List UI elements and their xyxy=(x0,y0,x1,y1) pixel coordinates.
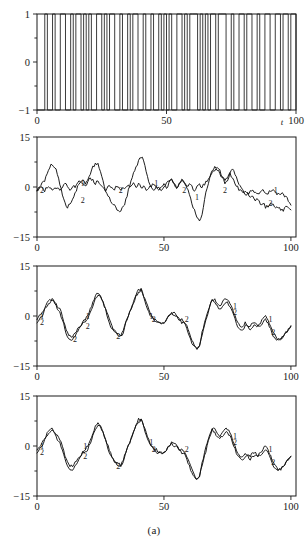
curve-number-label: 2 xyxy=(182,186,186,195)
panel-third: −150150501001221221221212 xyxy=(14,261,299,382)
curve-number-label: 2 xyxy=(152,445,156,454)
y-tick-label: 15 xyxy=(20,261,31,272)
curve-number-label: 2 xyxy=(119,186,123,195)
curve-number-label: 2 xyxy=(233,438,237,447)
curve-number-label: 2 xyxy=(116,332,120,341)
curve-number-label: 1 xyxy=(81,179,85,188)
x-tick-label: 100 xyxy=(288,115,304,126)
curve-number-label: 2 xyxy=(81,196,85,205)
y-tick-label: 0 xyxy=(25,441,30,452)
plot-frame xyxy=(37,396,296,496)
curve-number-label: 1 xyxy=(86,312,90,321)
x-tick-label: 50 xyxy=(161,115,172,126)
curve-number-label: 2 xyxy=(83,452,87,461)
curve-number-label: 1 xyxy=(195,193,199,202)
curve-number-label: 2 xyxy=(86,322,90,331)
y-tick-label: 15 xyxy=(20,391,31,402)
curve-number-label: 1 xyxy=(269,445,273,454)
y-tick-label: 0 xyxy=(25,57,30,68)
curve-number-label: 2 xyxy=(271,328,275,337)
plot-frame xyxy=(37,266,296,366)
curve-number-label: 2 xyxy=(233,308,237,317)
curve-number-label: 2 xyxy=(185,445,189,454)
curve-number-label: 1 xyxy=(83,442,87,451)
y-tick-label: −15 xyxy=(14,491,30,502)
figure-multi-panel-chart: −101050100t−150150501002122121212−150150… xyxy=(0,0,308,554)
y-tick-label: −1 xyxy=(19,105,30,116)
x-tick-label: 50 xyxy=(159,501,170,512)
curve-number-label: 1 xyxy=(269,315,273,324)
y-tick-label: −15 xyxy=(14,232,30,243)
curve-number-label: 1 xyxy=(274,186,278,195)
curve-number-label: 2 xyxy=(40,448,44,457)
x-tick-label: 0 xyxy=(34,371,39,382)
panel-second: −150150501002122121212 xyxy=(14,132,299,253)
series-1 xyxy=(37,418,291,479)
x-tick-label: 100 xyxy=(283,371,299,382)
curve-number-label: 2 xyxy=(116,462,120,471)
curve-number-label: 2 xyxy=(185,315,189,324)
series-binary input signal xyxy=(37,14,296,110)
curve-number-label: 2 xyxy=(152,315,156,324)
y-tick-label: 1 xyxy=(25,9,30,20)
curve-number-label: 2 xyxy=(269,199,273,208)
y-tick-label: 0 xyxy=(25,182,30,193)
x-tick-label: 100 xyxy=(283,242,299,253)
panel-top: −101050100t xyxy=(19,9,304,127)
curve-number-label: 1 xyxy=(154,179,158,188)
y-tick-label: 0 xyxy=(25,311,30,322)
x-tick-label: 0 xyxy=(34,242,39,253)
x-tick-label: 0 xyxy=(34,501,39,512)
x-tick-label: 0 xyxy=(34,115,39,126)
figure-caption: (a) xyxy=(0,524,308,536)
y-tick-label: 15 xyxy=(20,132,31,143)
curve-number-label: 2 xyxy=(40,186,44,195)
curve-number-label: 2 xyxy=(40,318,44,327)
curve-number-label: 2 xyxy=(73,335,77,344)
curve-number-label: 2 xyxy=(271,458,275,467)
x-tick-label: 50 xyxy=(159,242,170,253)
panel-fourth: −15015050100121221221212 xyxy=(14,391,299,512)
y-tick-label: −15 xyxy=(14,361,30,372)
series-2 xyxy=(37,419,291,479)
x-tick-label: 50 xyxy=(159,371,170,382)
x-axis-name: t xyxy=(281,117,284,127)
x-tick-label: 100 xyxy=(283,501,299,512)
series-1 xyxy=(37,157,291,221)
curve-number-label: 2 xyxy=(223,186,227,195)
